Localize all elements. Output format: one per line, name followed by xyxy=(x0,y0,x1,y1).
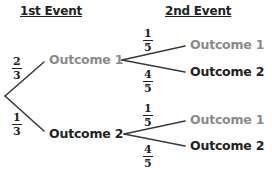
branch-o2-to-o2 xyxy=(124,134,185,146)
numerator: 2 xyxy=(12,56,22,69)
denominator: 5 xyxy=(144,157,152,169)
branch-o1-to-o1 xyxy=(122,46,185,60)
probability-o2-to-o2: 4 5 xyxy=(143,144,153,169)
denominator: 5 xyxy=(144,82,152,94)
branch-o1-to-o2 xyxy=(122,60,185,72)
numerator: 4 xyxy=(143,69,153,82)
outcome-2-after-outcome-2: Outcome 2 xyxy=(190,138,264,153)
denominator: 5 xyxy=(144,116,152,128)
probability-first-outcome-2: 1 3 xyxy=(12,112,22,137)
denominator: 3 xyxy=(13,69,21,81)
tree-diagram: 1st Event 2nd Event 2 3 1 3 Outcome 1 Ou… xyxy=(0,0,272,188)
branch-root-to-outcome-1 xyxy=(5,62,44,96)
outcome-1-first-event: Outcome 1 xyxy=(49,52,123,67)
outcome-2-first-event: Outcome 2 xyxy=(49,126,123,141)
probability-o1-to-o1: 1 5 xyxy=(143,28,153,53)
tree-branches xyxy=(0,0,272,188)
probability-o1-to-o2: 4 5 xyxy=(143,69,153,94)
branch-o2-to-o1 xyxy=(124,121,185,134)
numerator: 1 xyxy=(143,103,153,116)
probability-first-outcome-1: 2 3 xyxy=(12,56,22,81)
numerator: 1 xyxy=(12,112,22,125)
outcome-1-after-outcome-1: Outcome 1 xyxy=(190,37,264,52)
denominator: 3 xyxy=(13,125,21,137)
outcome-2-after-outcome-1: Outcome 2 xyxy=(190,64,264,79)
branch-root-to-outcome-2 xyxy=(5,96,44,131)
outcome-1-after-outcome-2: Outcome 1 xyxy=(190,112,264,127)
numerator: 1 xyxy=(143,28,153,41)
denominator: 5 xyxy=(144,41,152,53)
probability-o2-to-o1: 1 5 xyxy=(143,103,153,128)
numerator: 4 xyxy=(143,144,153,157)
